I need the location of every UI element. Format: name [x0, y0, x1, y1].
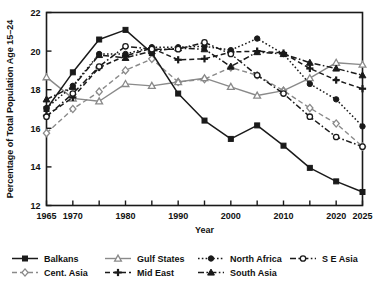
data-point-marker — [254, 73, 259, 78]
data-point-marker — [23, 256, 28, 261]
data-point-marker — [281, 91, 286, 96]
legend-label: Balkans — [44, 254, 79, 264]
x-tick-label: 1990 — [168, 211, 188, 221]
data-point-marker — [228, 136, 233, 141]
chart-container: 1214161820221965197019801990200020102020… — [0, 0, 376, 281]
legend-item-cent-asia: Cent. Asia — [12, 268, 89, 278]
data-point-marker — [333, 134, 338, 139]
legend-item-gulf-states: Gulf States — [105, 254, 185, 264]
data-point-marker — [203, 55, 205, 62]
data-point-marker — [177, 56, 179, 63]
data-point-marker — [44, 114, 49, 119]
data-point-marker — [360, 144, 365, 149]
data-point-marker — [117, 269, 119, 276]
y-tick-label: 12 — [30, 201, 40, 211]
x-tick-label: 2020 — [326, 211, 346, 221]
data-point-marker — [96, 64, 101, 69]
legend-label: South Asia — [230, 268, 278, 278]
y-tick-label: 18 — [30, 85, 40, 95]
legend-label: North Africa — [230, 254, 283, 264]
data-point-marker — [202, 118, 207, 123]
data-point-marker — [307, 81, 312, 86]
data-point-marker — [202, 40, 207, 45]
data-point-marker — [123, 27, 128, 32]
legend-label: Gulf States — [137, 254, 185, 264]
data-point-marker — [176, 91, 181, 96]
x-tick-label: 2025 — [352, 211, 372, 221]
data-point-marker — [97, 37, 102, 42]
legend-label: S E Asia — [322, 254, 359, 264]
data-point-marker — [307, 114, 312, 119]
y-tick-label: 20 — [30, 47, 40, 57]
legend-label: Cent. Asia — [44, 268, 89, 278]
data-point-marker — [360, 124, 365, 129]
y-tick-label: 22 — [30, 8, 40, 18]
y-tick-label: 14 — [30, 162, 40, 172]
legend: BalkansCent. AsiaGulf StatesMid EastNort… — [12, 254, 359, 278]
legend-label: Mid East — [137, 268, 174, 278]
x-tick-label: 1970 — [63, 211, 83, 221]
x-tick-label: 2010 — [273, 211, 293, 221]
data-point-marker — [115, 255, 122, 261]
data-point-marker — [333, 97, 338, 102]
data-point-marker — [300, 256, 305, 261]
data-point-marker — [44, 105, 49, 110]
data-point-marker — [334, 179, 339, 184]
data-point-marker — [361, 85, 363, 92]
data-point-marker — [228, 51, 233, 56]
y-tick-label: 16 — [30, 124, 40, 134]
data-point-marker — [149, 46, 154, 51]
data-point-marker — [254, 36, 259, 41]
legend-item-s-e-asia: S E Asia — [290, 254, 359, 264]
data-point-marker — [360, 189, 365, 194]
data-point-marker — [281, 143, 286, 148]
data-point-marker — [70, 70, 75, 75]
legend-item-south-asia: South Asia — [198, 268, 278, 278]
data-point-marker — [307, 165, 312, 170]
x-tick-label: 2000 — [221, 211, 241, 221]
x-tick-label: 1965 — [36, 211, 56, 221]
data-point-marker — [255, 123, 260, 128]
data-point-marker — [123, 44, 128, 49]
legend-item-north-africa: North Africa — [198, 254, 283, 264]
y-axis-title: Percentage of Total Population Age 15–24 — [5, 20, 15, 199]
x-tick-label: 1980 — [115, 211, 135, 221]
data-point-marker — [335, 76, 337, 83]
x-axis-title: Year — [195, 225, 215, 235]
data-point-marker — [175, 46, 180, 51]
data-point-marker — [208, 256, 213, 261]
legend-item-balkans: Balkans — [12, 254, 79, 264]
data-point-marker — [309, 65, 311, 72]
data-point-marker — [70, 91, 75, 96]
legend-item-mid-east: Mid East — [105, 268, 174, 278]
data-point-marker — [22, 269, 28, 276]
population-line-chart: 1214161820221965197019801990200020102020… — [0, 0, 376, 281]
